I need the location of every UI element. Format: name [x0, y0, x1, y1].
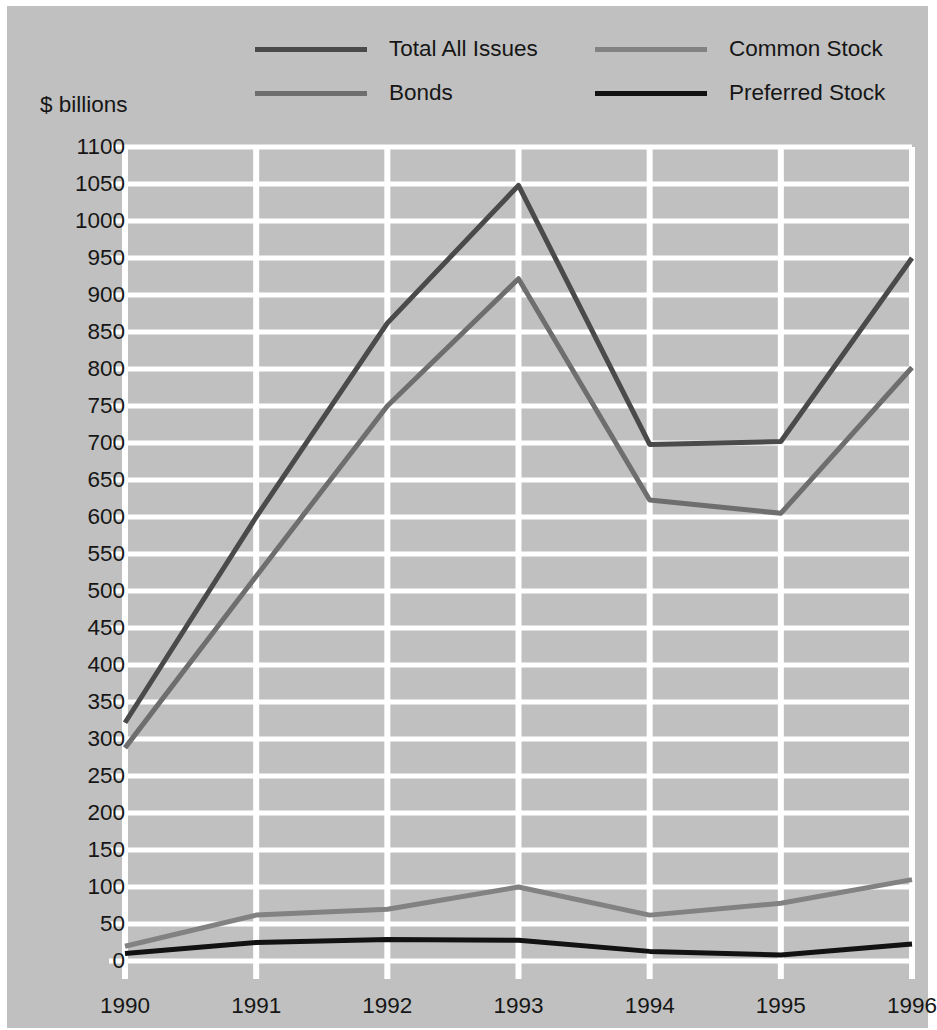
x-axis-tick-label: 1990	[100, 993, 150, 1019]
plot-area: 0501001502002503003504004505005506006507…	[7, 6, 937, 1030]
x-axis-tick-label: 1994	[625, 993, 675, 1019]
x-axis-tick-labels: 1990199119921993199419951996	[7, 6, 937, 1030]
x-axis-tick-label: 1996	[887, 993, 937, 1019]
x-axis-tick-label: 1992	[362, 993, 412, 1019]
x-axis-tick-label: 1995	[756, 993, 806, 1019]
x-axis-tick-label: 1991	[231, 993, 281, 1019]
x-axis-tick-label: 1993	[493, 993, 543, 1019]
